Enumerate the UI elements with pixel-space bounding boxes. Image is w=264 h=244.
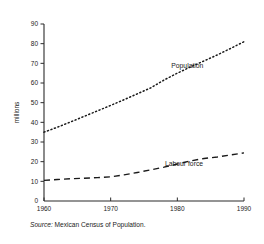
y-tick-label: 90 xyxy=(31,20,39,27)
y-axis-title: millions xyxy=(13,101,20,123)
x-tick-label: 1990 xyxy=(237,205,252,212)
x-tick-label: 1970 xyxy=(103,205,118,212)
series-annotation: Population xyxy=(171,62,203,70)
series-annotation: Labour force xyxy=(165,160,203,167)
y-axis-title-text: millions xyxy=(13,101,20,123)
series-annotations: PopulationLabour force xyxy=(165,62,204,166)
line-chart: 0102030405060708090 1960197019801990 Pop… xyxy=(0,0,264,244)
x-tick-label: 1960 xyxy=(37,205,52,212)
series-line-population xyxy=(44,42,244,132)
y-tick-label: 30 xyxy=(31,138,39,145)
x-tick-label: 1980 xyxy=(170,205,185,212)
y-tick-label: 10 xyxy=(31,178,39,185)
series-layer xyxy=(44,42,244,181)
y-tick-label: 50 xyxy=(31,99,39,106)
series-line-labour-force xyxy=(44,153,244,181)
source-text: Mexican Census of Population. xyxy=(55,221,146,228)
source-note: Source: Mexican Census of Population. xyxy=(30,221,145,228)
y-axis: 0102030405060708090 xyxy=(31,20,44,204)
y-tick-label: 20 xyxy=(31,158,39,165)
y-tick-label: 0 xyxy=(34,197,38,204)
chart-figure: 0102030405060708090 1960197019801990 Pop… xyxy=(0,0,264,244)
source-label: Source: xyxy=(30,221,53,228)
y-tick-label: 60 xyxy=(31,79,39,86)
y-tick-label: 70 xyxy=(31,60,39,67)
x-axis: 1960197019801990 xyxy=(37,198,252,213)
y-tick-label: 80 xyxy=(31,40,39,47)
y-tick-label: 40 xyxy=(31,119,39,126)
